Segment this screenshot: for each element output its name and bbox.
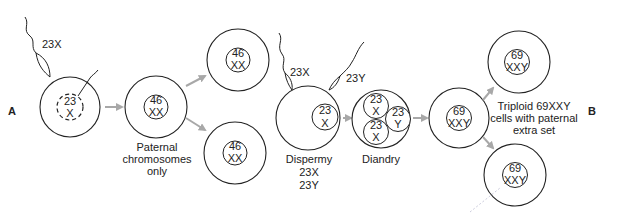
- egg-cell-a: 23 X: [40, 70, 100, 137]
- daughter-cell-46xx-top: 46 XX: [207, 29, 269, 91]
- svg-text:Y: Y: [394, 118, 402, 130]
- egg-cell-dispermy: 23 X: [276, 86, 340, 150]
- svg-text:XX: XX: [228, 152, 243, 164]
- svg-text:23: 23: [392, 106, 404, 118]
- faint-dotted-line: [470, 188, 500, 212]
- daughter-cell-46xx-bottom: 46 XX: [204, 122, 266, 184]
- zygote-ploidy: 46: [150, 94, 162, 106]
- zygote-sex-chromosomes: XX: [149, 106, 164, 118]
- arrow-icon: [483, 137, 493, 148]
- panel-label-a: A: [8, 105, 16, 117]
- arrow-icon: [186, 76, 205, 86]
- svg-text:23X: 23X: [299, 166, 319, 178]
- svg-text:23Y: 23Y: [299, 179, 319, 191]
- sperm-label-23y: 23Y: [346, 72, 366, 84]
- svg-text:chromosomes: chromosomes: [122, 153, 192, 165]
- sperm-label-23x: 23X: [42, 38, 62, 50]
- svg-text:XXY: XXY: [506, 61, 529, 73]
- svg-text:Dispermy: Dispermy: [286, 153, 333, 165]
- egg-nucleus-line1: 23: [64, 95, 76, 107]
- svg-text:46: 46: [232, 47, 244, 59]
- svg-text:23: 23: [370, 119, 382, 131]
- sperm-23x-b: [279, 33, 292, 90]
- svg-text:Triploid 69XXY: Triploid 69XXY: [498, 100, 572, 112]
- svg-text:46: 46: [229, 140, 241, 152]
- svg-text:23: 23: [370, 93, 382, 105]
- svg-text:XXY: XXY: [504, 174, 527, 186]
- zygote-69xxy: 69 XXY: [429, 88, 489, 148]
- svg-text:69: 69: [509, 162, 521, 174]
- caption-diandry: Diandry: [362, 153, 400, 165]
- svg-text:X: X: [321, 117, 329, 129]
- svg-text:XXY: XXY: [448, 117, 471, 129]
- svg-text:XX: XX: [231, 59, 246, 71]
- daughter-cell-69xxy-top: 69 XXY: [488, 31, 550, 93]
- caption-dispermy: Dispermy 23X 23Y: [286, 153, 333, 191]
- triploidy-diagram: A B 23X 23 X 46 XX Paternal chromosomes …: [0, 0, 622, 219]
- svg-text:69: 69: [511, 49, 523, 61]
- svg-text:X: X: [372, 105, 380, 117]
- caption-triploid: Triploid 69XXY cells with paternal extra…: [490, 100, 577, 136]
- arrow-icon: [186, 118, 205, 130]
- caption-paternal: Paternal chromosomes only: [122, 141, 192, 177]
- egg-nucleus-line2: X: [66, 107, 74, 119]
- arrow-icon: [483, 88, 493, 100]
- svg-text:X: X: [372, 131, 380, 143]
- zygote-46xx: 46 XX: [125, 76, 187, 138]
- svg-text:Paternal: Paternal: [137, 141, 178, 153]
- sperm-label-23x-b: 23X: [290, 66, 310, 78]
- svg-text:23: 23: [319, 104, 331, 116]
- svg-text:cells with paternal: cells with paternal: [490, 112, 577, 124]
- panel-label-b: B: [588, 105, 596, 117]
- svg-text:only: only: [147, 165, 168, 177]
- diandry-cell: 23 X 23 Y 23 X: [352, 90, 411, 148]
- svg-text:69: 69: [453, 105, 465, 117]
- svg-text:extra set: extra set: [513, 124, 555, 136]
- daughter-cell-69xxy-bottom: 69 XXY: [484, 144, 546, 206]
